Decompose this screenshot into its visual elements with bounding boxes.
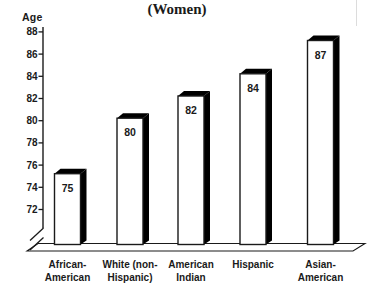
- bar-value-label: 82: [185, 104, 197, 116]
- bar-asian-american: [308, 41, 334, 245]
- y-tick-label: 78: [26, 137, 38, 148]
- life-expectancy-bar-chart: (Women) Age 8886848280787674727580828487…: [0, 0, 376, 290]
- y-tick-label: 86: [26, 49, 38, 60]
- bar-side-shadow: [334, 36, 340, 245]
- scan-crease-artifact: [356, 0, 357, 26]
- category-label-line: Asian-: [273, 259, 369, 272]
- bar-side-shadow: [143, 113, 149, 244]
- y-tick-label: 82: [26, 93, 38, 104]
- plot-area: 8886848280787674727580828487: [0, 0, 376, 290]
- y-tick-label: 88: [26, 26, 38, 37]
- bar-value-label: 84: [247, 82, 259, 94]
- bar-hispanic: [240, 74, 266, 245]
- bar-value-label: 80: [124, 126, 136, 138]
- y-tick-label: 76: [26, 160, 38, 171]
- bar-side-shadow: [204, 91, 210, 245]
- y-tick-label: 80: [26, 115, 38, 126]
- bar-side-shadow: [81, 169, 87, 245]
- category-label: Asian-American: [273, 259, 369, 284]
- bar-value-label: 75: [62, 182, 74, 194]
- bar-american-indian: [178, 96, 204, 245]
- bar-side-shadow: [266, 69, 272, 245]
- category-label-line: Indian: [143, 272, 239, 285]
- category-label-line: American: [273, 272, 369, 285]
- y-tick-label: 74: [26, 182, 38, 193]
- y-tick-label: 84: [26, 71, 38, 82]
- y-tick-label: 72: [26, 204, 38, 215]
- bar-value-label: 87: [315, 49, 327, 61]
